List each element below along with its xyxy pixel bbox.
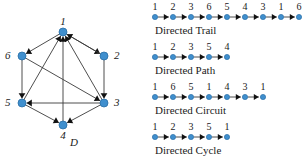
walk-vertex-label: 1 <box>153 82 158 92</box>
graph-edge <box>67 104 101 123</box>
graph-edge <box>65 36 102 101</box>
walk-row-directed-path: 12354Directed Path <box>148 42 302 82</box>
walk-vertex[interactable] <box>152 94 157 99</box>
walk-edge-arrowhead <box>254 94 259 100</box>
walk-edge-arrowhead <box>182 14 187 20</box>
walk-vertex-label: 6 <box>171 82 176 92</box>
walk-vertex-label: 1 <box>225 122 230 132</box>
walk-edge-arrowhead <box>182 134 187 140</box>
walk-vertex-label: 6 <box>207 2 212 12</box>
walk-edge-arrowhead <box>218 14 223 20</box>
walk-vertex-label: 1 <box>207 82 212 92</box>
walk-vertex[interactable] <box>170 94 175 99</box>
walk-vertex-label: 1 <box>279 2 284 12</box>
walk-caption-directed-trail: Directed Trail <box>148 24 302 36</box>
walk-vertex-label: 1 <box>153 42 158 52</box>
walk-vertex[interactable] <box>206 54 211 59</box>
walk-edge-arrowhead <box>182 94 187 100</box>
graph-edge-arrowhead <box>19 93 26 98</box>
walk-vertex[interactable] <box>242 94 247 99</box>
walk-vertex[interactable] <box>170 134 175 139</box>
graph-edge <box>67 34 102 54</box>
walk-vertex[interactable] <box>170 14 175 19</box>
graph-vertex-label-3: 3 <box>114 97 120 108</box>
walk-edge-arrowhead <box>164 54 169 60</box>
walk-row-directed-trail: 123654316Directed Trail <box>148 2 302 42</box>
walk-edge-arrowhead <box>182 54 187 60</box>
walk-vertex[interactable] <box>278 14 283 19</box>
walk-vertex-label: 2 <box>171 2 176 12</box>
walk-vertex-label: 3 <box>261 2 266 12</box>
walk-vertex-label: 1 <box>261 82 266 92</box>
walk-edge-arrowhead <box>254 14 259 20</box>
walk-vertex[interactable] <box>188 94 193 99</box>
walk-vertex-label: 4 <box>225 42 230 52</box>
graph-vertex-label-5: 5 <box>5 97 11 108</box>
graph-vertex-5[interactable] <box>18 99 26 107</box>
walk-vertex-label: 5 <box>225 2 230 12</box>
digraph-drawing <box>0 0 148 140</box>
digraph-caption: D <box>0 136 148 148</box>
walk-vertex[interactable] <box>170 54 175 59</box>
digraph-panel: 123456 D <box>0 0 148 166</box>
walk-edge-arrowhead <box>200 94 205 100</box>
walk-edge-arrowhead <box>290 14 295 20</box>
walk-vertex-label: 1 <box>153 2 158 12</box>
walk-edge-arrowhead <box>200 54 205 60</box>
walk-vertex[interactable] <box>152 54 157 59</box>
graph-vertex-4[interactable] <box>59 121 67 129</box>
walk-vertex-label: 3 <box>189 2 194 12</box>
walk-edge-arrowhead <box>218 134 223 140</box>
walk-vertex[interactable] <box>206 134 211 139</box>
graph-vertex-2[interactable] <box>100 52 108 60</box>
graph-vertex-label-1: 1 <box>60 16 66 27</box>
walk-vertex[interactable] <box>260 14 265 19</box>
graph-vertex-label-2: 2 <box>114 50 120 61</box>
walk-vertex[interactable] <box>296 14 301 19</box>
graph-vertex-1[interactable] <box>59 28 67 36</box>
walk-edge-arrowhead <box>164 14 169 20</box>
walk-vertex-label: 4 <box>225 82 230 92</box>
walk-caption-directed-circuit: Directed Circuit <box>148 104 302 116</box>
walk-vertex-label: 4 <box>243 2 248 12</box>
walk-vertex[interactable] <box>260 94 265 99</box>
walk-edge-arrowhead <box>200 134 205 140</box>
walk-vertex[interactable] <box>224 14 229 19</box>
walk-edge-arrowhead <box>164 134 169 140</box>
walk-edge-arrowhead <box>272 14 277 20</box>
graph-edge <box>26 33 61 53</box>
walk-edge-arrowhead <box>164 94 169 100</box>
walk-vertex-label: 5 <box>207 122 212 132</box>
walk-vertex-label: 3 <box>189 122 194 132</box>
walk-vertex[interactable] <box>188 134 193 139</box>
walk-row-directed-cycle: 12351Directed Cycle <box>148 122 302 162</box>
walk-vertex-label: 5 <box>207 42 212 52</box>
walk-vertex[interactable] <box>188 14 193 19</box>
walk-vertex[interactable] <box>242 14 247 19</box>
walk-edge-arrowhead <box>200 14 205 20</box>
graph-vertex-3[interactable] <box>100 99 108 107</box>
walk-caption-directed-cycle: Directed Cycle <box>148 144 302 156</box>
walk-vertex-label: 3 <box>243 82 248 92</box>
graph-edge-arrowhead <box>101 93 108 98</box>
walk-vertex-label: 6 <box>297 2 302 12</box>
walk-edge-arrowhead <box>218 94 223 100</box>
walk-vertex[interactable] <box>152 14 157 19</box>
walk-vertex[interactable] <box>206 14 211 19</box>
walk-vertex[interactable] <box>206 94 211 99</box>
walk-vertex[interactable] <box>152 134 157 139</box>
walk-edge-arrowhead <box>236 14 241 20</box>
walk-vertex[interactable] <box>224 134 229 139</box>
walk-vertex-label: 2 <box>171 122 176 132</box>
walk-edge-arrowhead <box>218 54 223 60</box>
walk-vertex[interactable] <box>224 54 229 59</box>
walk-vertex[interactable] <box>224 94 229 99</box>
walk-vertex[interactable] <box>188 54 193 59</box>
walk-caption-directed-path: Directed Path <box>148 64 302 76</box>
walk-sequences-panel: 123654316Directed Trail12354Directed Pat… <box>148 0 302 166</box>
walk-vertex-label: 3 <box>189 42 194 52</box>
walk-row-directed-circuit: 1651431Directed Circuit <box>148 82 302 122</box>
walk-vertex-label: 5 <box>189 82 194 92</box>
walk-edge-arrowhead <box>236 94 241 100</box>
graph-vertex-6[interactable] <box>18 52 26 60</box>
